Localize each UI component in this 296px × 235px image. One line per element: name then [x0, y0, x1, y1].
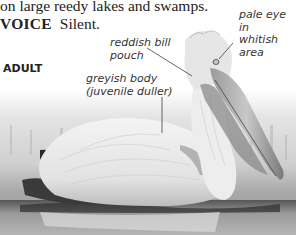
- section-heading-adult: ADULT: [3, 62, 42, 75]
- voice-line: VOICE Silent.: [0, 15, 100, 33]
- annotation-line: (juvenile duller): [86, 86, 173, 99]
- annotation-line: pouch: [110, 50, 171, 63]
- annotation-line: area: [239, 47, 296, 60]
- annotation-line: reddish bill: [110, 37, 171, 50]
- habitat-text: on large reedy lakes and swamps.: [0, 0, 208, 15]
- annotation-line: pale eye in: [239, 9, 296, 34]
- annotation-eye: pale eye in whitish area: [239, 9, 296, 59]
- voice-label: VOICE: [0, 15, 52, 32]
- annotation-bill-pouch: reddish bill pouch: [110, 37, 171, 62]
- annotation-line: greyish body: [86, 73, 173, 86]
- annotation-line: whitish: [239, 34, 296, 47]
- voice-value: Silent.: [60, 15, 100, 32]
- annotation-body: greyish body (juvenile duller): [86, 73, 173, 98]
